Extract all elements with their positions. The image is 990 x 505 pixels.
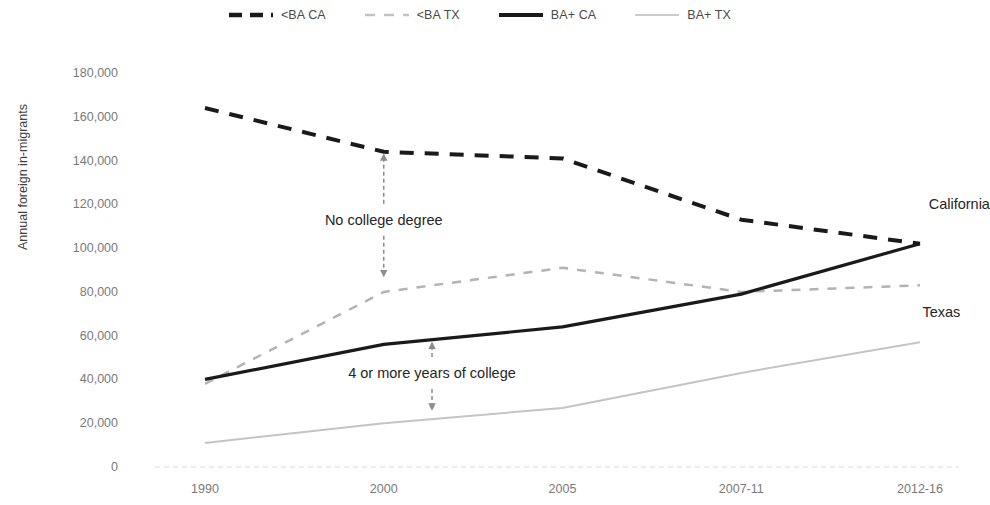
series-line-ba-ca — [205, 244, 920, 380]
chart-annotation: No college degree — [325, 212, 443, 228]
chart-annotation: 4 or more years of college — [348, 365, 516, 381]
series-inline-label: California — [929, 196, 990, 212]
series-inline-label: Texas — [922, 304, 960, 320]
series-line-ba-ca — [205, 108, 920, 244]
